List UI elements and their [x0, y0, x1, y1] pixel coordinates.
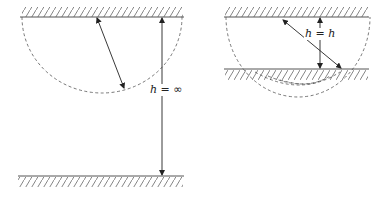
left-bottom-wall-hatching [18, 177, 183, 187]
right-top-wall-hatching [225, 7, 368, 17]
left-half-disk-boundary [22, 17, 182, 93]
label-equals: = [312, 27, 328, 40]
right-figure [224, 7, 370, 97]
right-excluded-arcs [226, 17, 370, 97]
right-distance-label: h = h [304, 28, 336, 40]
left-distance-label: h = ∞ [149, 84, 183, 96]
left-top-wall-hatching [22, 7, 183, 17]
left-radius-arrow [97, 18, 124, 88]
right-bottom-wall-hatching [225, 70, 368, 80]
label-equals: = [157, 83, 173, 96]
label-value: h [328, 27, 335, 40]
label-value: ∞ [173, 83, 182, 96]
left-figure [18, 7, 184, 187]
